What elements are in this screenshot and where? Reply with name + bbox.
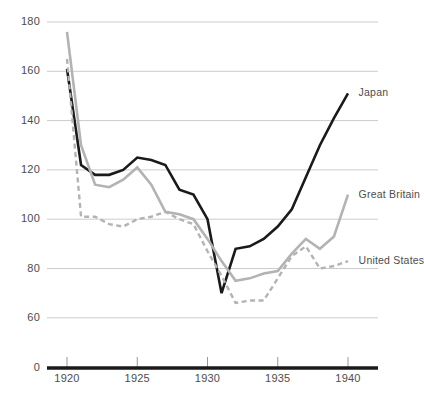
- x-axis-ticks: [67, 357, 348, 367]
- y-axis-tick-label: 160: [0, 64, 40, 76]
- x-axis-tick-label: 1935: [248, 372, 308, 384]
- y-axis-tick-label: 180: [0, 15, 40, 27]
- y-axis-tick-label: 0: [0, 361, 40, 373]
- chart-plot-area: [0, 0, 424, 406]
- y-axis-tick-label: 120: [0, 163, 40, 175]
- grid-lines: [47, 22, 378, 318]
- chart-container: 18016014012010080600 1920192519301935194…: [0, 0, 424, 406]
- x-axis-tick-label: 1930: [178, 372, 238, 384]
- x-axis-tick-label: 1920: [37, 372, 97, 384]
- y-axis-tick-label: 140: [0, 114, 40, 126]
- data-series-group: [67, 32, 348, 303]
- series-line-great-britain: [67, 32, 348, 281]
- x-axis-tick-label: 1925: [107, 372, 167, 384]
- series-line-united-states: [67, 59, 348, 303]
- series-line-japan: [67, 69, 348, 293]
- series-label-united-states: United States: [359, 254, 424, 266]
- series-label-great-britain: Great Britain: [359, 188, 421, 200]
- series-label-japan: Japan: [359, 86, 389, 98]
- y-axis-tick-label: 100: [0, 212, 40, 224]
- x-axis-tick-label: 1940: [318, 372, 378, 384]
- y-axis-tick-label: 80: [0, 262, 40, 274]
- y-axis-tick-label: 60: [0, 311, 40, 323]
